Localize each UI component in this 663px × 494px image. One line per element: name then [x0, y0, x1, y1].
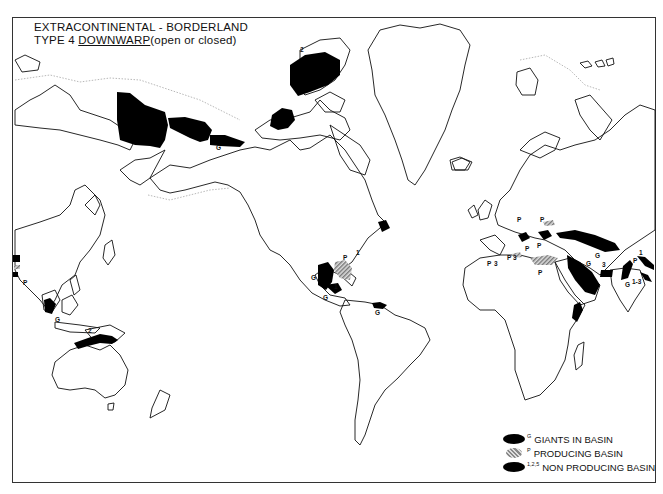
legend-item-giants: G GIANTS IN BASIN [503, 432, 655, 446]
basin-beaufort [168, 117, 212, 142]
nonproducing-basin-symbol-icon [503, 462, 525, 472]
basin-persian-gulf [567, 255, 600, 295]
basin-sverdrup-2 [270, 108, 295, 130]
legend-item-producing: P PRODUCING BASIN [503, 446, 655, 460]
southeast-asia-islands [42, 275, 125, 342]
label-med-p3: P [525, 245, 530, 252]
eurasia-coast [468, 105, 655, 275]
label-med-p2: P [507, 254, 512, 261]
label-asia-2: 2 [88, 327, 92, 334]
producing-libya-egypt [530, 255, 558, 265]
madagascar [574, 342, 584, 370]
label-pakistan-3: 3 [602, 261, 606, 268]
basin-pakistan [600, 270, 613, 277]
label-gulf-1: 1 [334, 283, 338, 290]
label-gulf-p: P [343, 254, 348, 261]
producing-taiwan [14, 265, 20, 269]
new-zealand [150, 390, 170, 418]
label-india-p: P [633, 257, 638, 264]
basin-caspian [556, 230, 620, 252]
world-map: G 2 P G 1 G G 1 P P P 3 P 3 P P P G G 3 … [0, 0, 663, 494]
legend-label: NON PRODUCING BASIN [542, 462, 655, 473]
australia-coast [52, 345, 128, 398]
label-asia-g: G [55, 316, 60, 323]
legend: G GIANTS IN BASIN P PRODUCING BASIN 1,2,… [503, 432, 655, 474]
label-asia-p: P [23, 279, 28, 286]
label-med-p4: P [537, 242, 542, 249]
label-himalaya-1: 1 [639, 249, 643, 256]
basins [13, 52, 654, 349]
label-india-1-3: 1-3 [632, 278, 642, 285]
label-gulf-g: G [311, 274, 316, 281]
producing-basins [14, 220, 558, 280]
basin-sverdrup-1 [290, 52, 340, 96]
label-europe-p2: P [540, 216, 545, 223]
east-asia-coast [15, 185, 115, 310]
label-east-us-1: 1 [356, 249, 360, 256]
label-mexico-g: G [323, 294, 328, 301]
producing-basin-symbol-icon [506, 448, 522, 458]
label-india-g: G [625, 281, 630, 288]
label-arctic-2: 2 [300, 46, 304, 53]
basin-himalaya [637, 256, 654, 270]
label-caspian-g: G [595, 252, 600, 259]
basin-east-us [378, 220, 390, 232]
producing-east-europe [543, 220, 555, 226]
basin-india-west [621, 260, 633, 280]
africa-coast [463, 255, 585, 400]
label-persian-g: G [586, 260, 591, 267]
label-alaska-g: G [216, 144, 221, 151]
north-america-coast [120, 135, 385, 306]
basin-black-sea [538, 230, 552, 240]
south-america-coast [340, 300, 430, 445]
tasmania [108, 403, 114, 410]
legend-superscript: P [527, 447, 531, 453]
legend-superscript: G [527, 433, 531, 439]
label-med-3a: 3 [494, 260, 498, 267]
basin-north-slope-alaska [117, 92, 168, 148]
legend-superscript: 1,2,5 [527, 461, 539, 467]
arctic-islands-east [516, 55, 614, 140]
label-med-p1: P [487, 260, 492, 267]
basin-taiwan [13, 255, 20, 262]
legend-item-nonproducing: 1,2,5 NON PRODUCING BASIN [503, 460, 655, 474]
basin-east-china [13, 272, 18, 277]
legend-label: PRODUCING BASIN [534, 448, 623, 459]
basin-bengal [640, 272, 652, 282]
producing-gulf-coast [334, 260, 352, 280]
label-venezuela-g: G [375, 309, 380, 316]
giant-basin-symbol-icon [503, 434, 525, 444]
legend-label: GIANTS IN BASIN [534, 434, 613, 445]
label-med-3b: 3 [513, 254, 517, 261]
label-levant-p: P [538, 269, 543, 276]
label-europe-p1: P [517, 216, 522, 223]
